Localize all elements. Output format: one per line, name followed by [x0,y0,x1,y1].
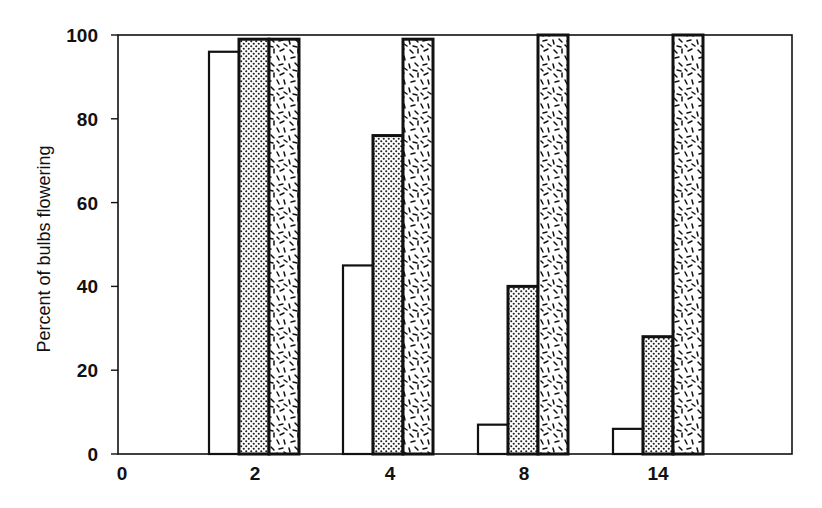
bar-dots-14 [643,337,673,454]
bar-none-14 [613,429,643,454]
bar-group-14 [613,35,703,454]
x-tick-label: 0 [117,463,128,484]
bar-dashes-2 [269,39,299,454]
y-axis-title: Percent of bulbs flowering [34,145,54,352]
bar-dashes-4 [403,39,433,454]
bar-dots-4 [373,136,403,454]
y-tick-label: 60 [77,193,98,214]
y-axis: 020406080100 [66,25,118,465]
bar-series-group [209,35,703,454]
bar-dots-2 [239,39,269,454]
x-tick-label: 14 [647,463,669,484]
x-tick-label: 4 [385,463,396,484]
bar-group-2 [209,39,299,454]
y-tick-label: 20 [77,360,98,381]
bar-group-8 [478,35,568,454]
y-tick-label: 100 [66,25,98,46]
x-axis: 024814 [117,463,669,484]
y-tick-label: 80 [77,109,98,130]
bar-dots-8 [508,286,538,454]
bar-group-4 [343,39,433,454]
bar-none-2 [209,52,239,454]
bar-none-4 [343,265,373,454]
y-tick-label: 40 [77,276,98,297]
x-tick-label: 2 [250,463,261,484]
y-tick-label: 0 [87,444,98,465]
chart-canvas: 020406080100 024814 Percent of bulbs flo… [0,0,822,508]
bar-none-8 [478,425,508,454]
bar-chart: 020406080100 024814 Percent of bulbs flo… [0,0,822,508]
bar-dashes-14 [673,35,703,454]
x-tick-label: 8 [519,463,530,484]
bar-dashes-8 [538,35,568,454]
